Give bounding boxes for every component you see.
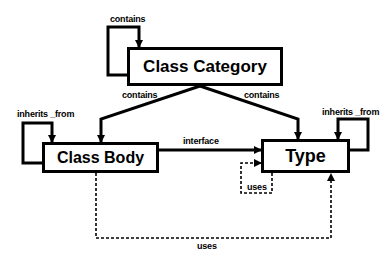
edge-label-type-self: inherits _from — [322, 107, 379, 117]
edge-label-category-to-type: contains — [244, 90, 279, 100]
node-label: Class Body — [57, 149, 144, 167]
diagram-connectors — [0, 0, 390, 261]
node-label: Class Category — [143, 57, 267, 77]
edge-body-to-type-uses — [96, 173, 331, 238]
edge-label-body-self: inherits _from — [17, 109, 74, 119]
node-type[interactable]: Type — [261, 139, 350, 173]
node-label: Type — [285, 146, 326, 167]
node-class-category[interactable]: Class Category — [127, 47, 283, 86]
edge-label-type-self-uses: uses — [247, 182, 267, 192]
node-class-body[interactable]: Class Body — [42, 142, 159, 173]
edge-label-category-self: contains — [110, 14, 145, 24]
edge-label-category-to-body: contains — [122, 90, 157, 100]
edge-label-interface: interface — [183, 136, 219, 146]
edge-label-body-to-type-uses: uses — [197, 241, 217, 251]
